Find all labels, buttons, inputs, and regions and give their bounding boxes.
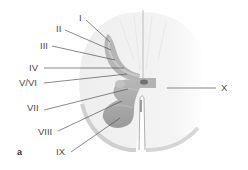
- label-lamina-VII: VII: [27, 103, 39, 113]
- label-lamina-III: III: [40, 41, 48, 51]
- label-lamina-VIII: VIII: [38, 127, 52, 137]
- central-canal: [140, 79, 148, 84]
- label-lamina-IV: IV: [29, 63, 38, 73]
- label-lamina-I: I: [79, 13, 82, 23]
- label-lamina-X: X: [221, 83, 227, 93]
- lateral-nucleus: [115, 80, 125, 88]
- label-lamina-II: II: [56, 24, 61, 34]
- label-lamina-IX: IX: [56, 147, 65, 157]
- ventral-median-fissure: [139, 96, 145, 150]
- panel-label: a: [17, 147, 22, 157]
- label-lamina-V-VI: V/VI: [19, 78, 37, 88]
- spinal-cord-diagram: [0, 0, 248, 170]
